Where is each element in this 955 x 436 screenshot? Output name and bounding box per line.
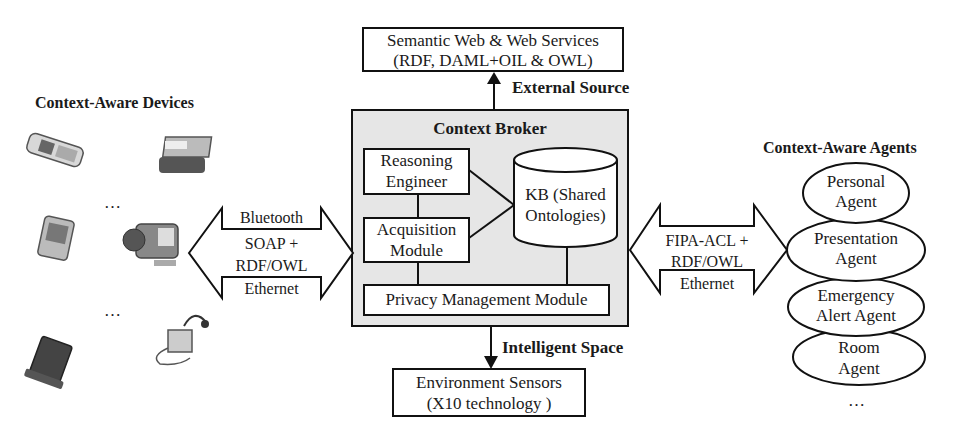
left-link-rdf-owl: RDF/OWL	[212, 258, 331, 274]
left-link-ethernet: Ethernet	[222, 281, 321, 297]
mobile-phone-icon	[25, 132, 84, 168]
right-link-fipa-acl: FIPA-ACL +	[646, 233, 768, 249]
external-source-label: External Source	[512, 79, 629, 96]
printer-icon	[159, 137, 212, 173]
context-broker-title: Context Broker	[352, 120, 628, 137]
semantic-web-label: Semantic Web & Web Services (RDF, DAML+O…	[363, 30, 623, 70]
privacy-management-label: Privacy Management Module	[364, 289, 609, 310]
devices-ellipsis-1: …	[104, 194, 121, 211]
pda-icon	[37, 216, 75, 261]
intelligent-space-label: Intelligent Space	[502, 339, 623, 356]
environment-sensors-label: Environment Sensors (X10 technology )	[393, 372, 585, 414]
devices-title: Context-Aware Devices	[35, 95, 194, 111]
agents-ellipsis: …	[848, 392, 865, 409]
agent-emergency-label: EmergencyAlert Agent	[788, 286, 924, 326]
tablet-icon	[24, 334, 77, 389]
right-link-rdf-owl: RDF/OWL	[646, 254, 768, 270]
agent-room-label: RoomAgent	[793, 337, 925, 379]
reasoning-engineer-label: Reasoning Engineer	[364, 150, 469, 192]
agent-presentation-label: PresentationAgent	[787, 229, 925, 269]
right-link-ethernet: Ethernet	[660, 276, 754, 292]
kb-label: KB (Shared Ontologies)	[512, 184, 619, 226]
agent-personal-label: PersonalAgent	[803, 172, 909, 212]
agents-title: Context-Aware Agents	[763, 140, 917, 156]
devices-ellipsis-2: …	[104, 302, 121, 319]
arrow-down-icon	[484, 356, 498, 369]
camcorder-icon	[123, 224, 178, 266]
acquisition-module-label: Acquisition Module	[364, 219, 469, 261]
music-player-icon	[156, 316, 209, 365]
left-link-soap: SOAP +	[222, 236, 321, 252]
left-link-bluetooth: Bluetooth	[222, 210, 321, 226]
arrow-up-icon	[487, 72, 501, 84]
